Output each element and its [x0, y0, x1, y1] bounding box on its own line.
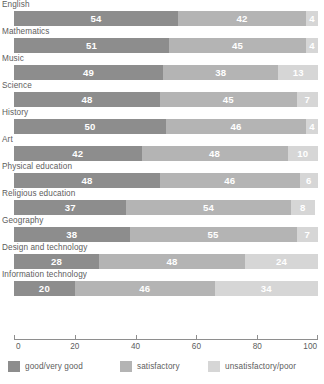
bar-segment-value: 45 [232, 41, 243, 51]
x-axis-tick [75, 335, 76, 340]
bar-segment-value: 8 [300, 203, 306, 213]
bar-segment-value: 48 [167, 257, 178, 267]
bar-category-label: English [2, 0, 30, 10]
legend-label: unsatisfactory/poor [225, 362, 296, 371]
bar-segment: 10 [288, 146, 318, 161]
x-axis-tick [14, 335, 15, 340]
bar-segment-value: 7 [305, 95, 311, 105]
bar-group: Music493813 [0, 54, 324, 81]
bar-segment-value: 28 [51, 257, 62, 267]
bar-segment-value: 13 [293, 68, 304, 78]
bar-segment: 38 [163, 65, 279, 80]
x-axis-tick-label: 100 [303, 342, 317, 351]
x-axis-tick [196, 335, 197, 340]
bar-category-label: Art [2, 135, 13, 145]
bar-group: Mathematics51454 [0, 27, 324, 54]
bar-segment: 28 [14, 254, 99, 269]
x-axis-tick-label: 80 [253, 342, 262, 351]
bar-group: Science48457 [0, 81, 324, 108]
bar-segment-value: 54 [91, 14, 102, 24]
legend-item[interactable]: good/very good [8, 360, 83, 373]
bar-segment-value: 48 [81, 176, 92, 186]
bar-segment: 20 [14, 281, 75, 296]
bar-segment-value: 42 [236, 14, 247, 24]
bar-segment: 4 [306, 38, 318, 53]
bar-segment: 42 [14, 146, 142, 161]
bar-group: Physical education48466 [0, 162, 324, 189]
bar-segment: 8 [291, 200, 315, 215]
bar-segment-value: 55 [208, 230, 219, 240]
bar-segment-value: 24 [276, 257, 287, 267]
x-axis-tick-label: 60 [192, 342, 201, 351]
legend-swatch-icon [8, 361, 20, 372]
x-axis: 020406080100 [0, 334, 324, 356]
bar-category-label: Religious education [2, 189, 75, 199]
bar-group: Design and technology284824 [0, 243, 324, 270]
legend-label: good/very good [25, 362, 83, 371]
bar-segment-value: 46 [230, 122, 241, 132]
bar-track: 284824 [14, 254, 318, 269]
bar-segment: 49 [14, 65, 163, 80]
bar-segment: 7 [297, 92, 318, 107]
bar-segment-value: 54 [203, 203, 214, 213]
bar-segment-value: 38 [66, 230, 77, 240]
bar-segment-value: 4 [309, 14, 315, 24]
bar-segment: 38 [14, 227, 130, 242]
legend-item[interactable]: satisfactory [120, 360, 180, 373]
bar-track: 48457 [14, 92, 318, 107]
legend-swatch-icon [208, 361, 220, 372]
bar-category-label: Science [2, 81, 32, 91]
chart-legend: good/very goodsatisfactoryunsatisfactory… [0, 360, 324, 376]
x-axis-tick [317, 335, 318, 340]
bar-category-label: Music [2, 54, 24, 64]
bar-segment-value: 4 [309, 41, 315, 51]
bar-group: Religious education37548 [0, 189, 324, 216]
bar-segment: 24 [245, 254, 318, 269]
x-axis-tick [257, 335, 258, 340]
bar-track: 38557 [14, 227, 318, 242]
legend-label: satisfactory [137, 362, 180, 371]
stacked-bar-chart: English54424Mathematics51454Music493813S… [0, 0, 324, 384]
bar-segment-value: 6 [306, 176, 312, 186]
bar-group: English54424 [0, 0, 324, 27]
bar-category-label: Design and technology [2, 243, 87, 253]
bar-track: 493813 [14, 65, 318, 80]
bar-segment-value: 48 [209, 149, 220, 159]
bar-segment: 45 [160, 92, 297, 107]
bar-segment: 46 [166, 119, 306, 134]
plot-area: English54424Mathematics51454Music493813S… [0, 0, 324, 332]
bar-segment-value: 48 [81, 95, 92, 105]
x-axis-line [14, 339, 318, 340]
bar-segment-value: 38 [215, 68, 226, 78]
bar-segment-value: 42 [72, 149, 83, 159]
bar-group: Geography38557 [0, 216, 324, 243]
bar-segment: 34 [215, 281, 318, 296]
bar-segment-value: 50 [84, 122, 95, 132]
bar-segment: 51 [14, 38, 169, 53]
x-axis-tick [136, 335, 137, 340]
bar-track: 424810 [14, 146, 318, 161]
bar-category-label: Geography [2, 216, 43, 226]
bar-group: History50464 [0, 108, 324, 135]
bar-segment: 7 [297, 227, 318, 242]
bar-track: 48466 [14, 173, 318, 188]
bar-category-label: History [2, 108, 28, 118]
bar-segment-value: 46 [224, 176, 235, 186]
bar-segment: 48 [142, 146, 288, 161]
bar-track: 37548 [14, 200, 318, 215]
bar-segment: 48 [14, 92, 160, 107]
bar-segment: 37 [14, 200, 126, 215]
bar-segment-value: 4 [309, 122, 315, 132]
bar-group: Information technology204634 [0, 270, 324, 297]
bar-segment-value: 10 [297, 149, 308, 159]
bar-segment: 48 [99, 254, 245, 269]
bar-track: 51454 [14, 38, 318, 53]
bar-segment-value: 7 [305, 230, 311, 240]
bar-track: 204634 [14, 281, 318, 296]
legend-item[interactable]: unsatisfactory/poor [208, 360, 296, 373]
bar-segment: 48 [14, 173, 160, 188]
bar-segment: 54 [14, 11, 178, 26]
bar-segment: 55 [130, 227, 297, 242]
bar-segment: 46 [75, 281, 215, 296]
bar-track: 50464 [14, 119, 318, 134]
